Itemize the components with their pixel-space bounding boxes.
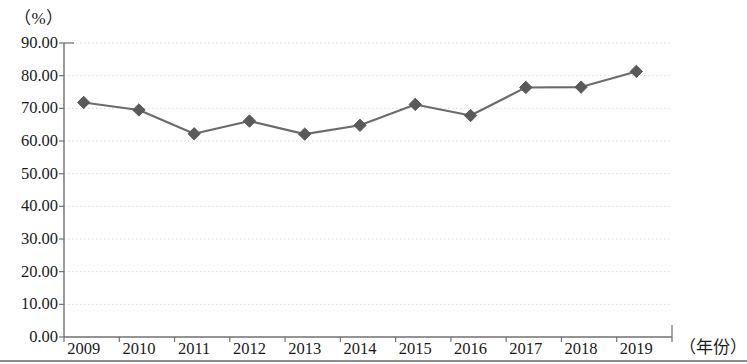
data-point-marker: 2018: 76.5 (575, 81, 587, 93)
x-axis-tick-label: 2018 (565, 341, 598, 358)
data-point-marker: 2011: 62.2 (188, 128, 200, 140)
x-axis-unit-label: （年份） (679, 333, 747, 358)
data-point-marker: 2013: 62.1 (299, 128, 311, 140)
data-point-marker: 2017: 76.4 (520, 81, 532, 93)
x-axis-tick-label: 2014 (344, 341, 377, 358)
data-point-marker: 2016: 67.8 (464, 109, 476, 121)
x-axis-tick-label: 2015 (399, 341, 432, 358)
chart-figure: （%） 90.0080.0070.0060.0050.0040.0030.002… (0, 0, 747, 364)
x-axis-tick-label: 2012 (233, 341, 266, 358)
data-point-marker: 2012: 66.1 (243, 115, 255, 127)
x-axis-tick-label: 2017 (509, 341, 542, 358)
x-axis-tick-label: 2016 (454, 341, 487, 358)
line-chart-plot: 2009: 71.82010: 69.52011: 62.22012: 66.1… (0, 0, 747, 364)
data-point-marker: 2010: 69.5 (133, 104, 145, 116)
x-axis-tick-label: 2011 (178, 341, 210, 358)
x-axis-tick-label: 2013 (288, 341, 321, 358)
data-point-marker: 2015: 71.2 (409, 98, 421, 110)
data-point-marker: 2009: 71.8 (77, 96, 89, 108)
data-point-marker: 2014: 64.8 (354, 119, 366, 131)
bottom-divider-rule (0, 360, 747, 362)
x-axis-tick-label: 2010 (122, 341, 155, 358)
x-axis-tick-label: 2009 (67, 341, 100, 358)
x-axis-tick-label: 2019 (620, 341, 653, 358)
